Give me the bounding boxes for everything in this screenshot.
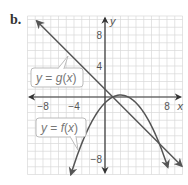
axes (30, 18, 181, 173)
y-tick-label: −8 (91, 154, 103, 165)
y-axis-label: y (109, 15, 117, 27)
x-tick-label: 8 (164, 101, 170, 112)
y-tick-label: 8 (96, 30, 102, 41)
x-tick-label: −4 (68, 101, 80, 112)
y-tick-label: 4 (96, 61, 102, 72)
coordinate-plane: −8−4884−8xy y = g(x) y = f(x) (0, 0, 188, 185)
x-tick-label: −8 (37, 101, 49, 112)
x-axis-label: x (177, 100, 184, 112)
label-f-text: y = f(x) (40, 121, 78, 135)
label-g: y = g(x) (31, 56, 83, 87)
tick-labels: −8−4884−8xy (37, 15, 183, 165)
label-g-text: y = g(x) (35, 71, 76, 85)
label-f: y = f(x) (36, 118, 86, 150)
